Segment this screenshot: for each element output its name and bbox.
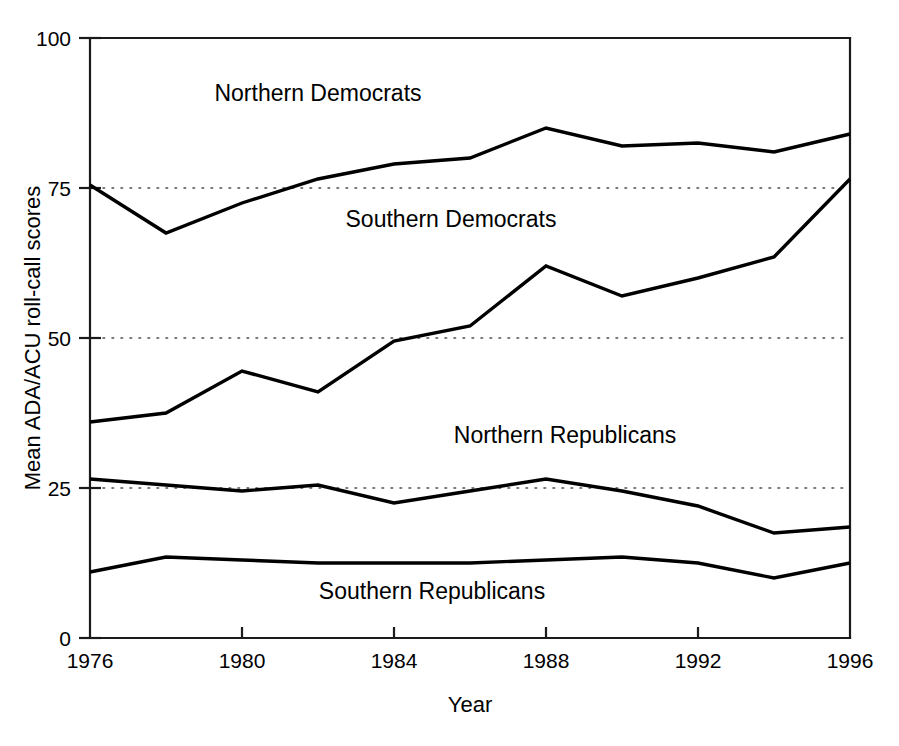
- series-line-southern-republicans: [90, 557, 850, 578]
- y-tick-label-25: 25: [48, 477, 71, 500]
- x-tick-label-1988: 1988: [523, 649, 570, 672]
- x-tick-label-1980: 1980: [219, 649, 266, 672]
- y-tick-label-100: 100: [36, 27, 71, 50]
- x-tick-label-1976: 1976: [67, 649, 114, 672]
- x-tick-label-1984: 1984: [371, 649, 418, 672]
- chart-figure: 0255075100 197619801984198819921996 Nort…: [0, 0, 899, 746]
- series-group: [90, 128, 850, 578]
- y-tick-label-50: 50: [48, 327, 71, 350]
- y-tick-label-75: 75: [48, 177, 71, 200]
- x-axis-title: Year: [448, 692, 492, 717]
- series-label-southern-republicans: Southern Republicans: [319, 578, 545, 604]
- y-axis-title: Mean ADA/ACU roll-call scores: [20, 186, 45, 490]
- y-tick-label-0: 0: [59, 627, 71, 650]
- series-label-northern-republicans: Northern Republicans: [454, 422, 676, 448]
- line-chart-plot: 0255075100 197619801984198819921996 Nort…: [0, 0, 899, 746]
- series-label-northern-democrats: Northern Democrats: [214, 80, 421, 106]
- series-label-southern-democrats: Southern Democrats: [346, 206, 557, 232]
- x-tick-label-1996: 1996: [827, 649, 874, 672]
- series-line-northern-republicans: [90, 479, 850, 533]
- x-tick-labels-group: 197619801984198819921996: [67, 649, 874, 672]
- x-tick-label-1992: 1992: [675, 649, 722, 672]
